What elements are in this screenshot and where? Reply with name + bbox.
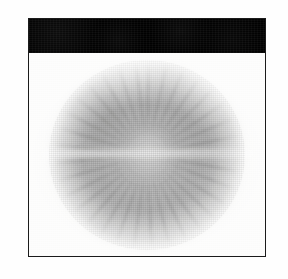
caption-text (29, 19, 265, 53)
figure-plate (28, 18, 266, 257)
caption-band (29, 19, 265, 53)
specimen-core-highlight (123, 128, 174, 177)
radial-specimen-figure (49, 60, 245, 250)
page-canvas (0, 0, 288, 279)
specimen-image-panel (29, 53, 265, 256)
